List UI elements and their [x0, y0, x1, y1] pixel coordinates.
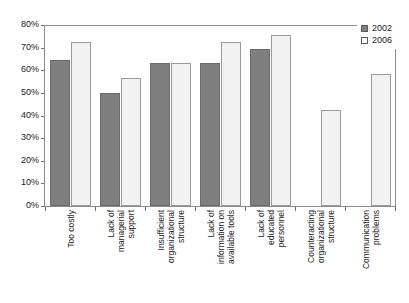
bar-2006[interactable] [71, 42, 91, 206]
x-axis-label-line: support [126, 210, 136, 303]
x-axis-label-line: Lack of [206, 210, 216, 303]
bar-group [345, 25, 395, 206]
bar-2006[interactable] [321, 110, 341, 206]
x-axis-label-line: problems [371, 210, 381, 303]
legend-item-2002[interactable]: 2002 [361, 23, 392, 34]
bar-group [145, 25, 195, 206]
bar-group [45, 25, 95, 206]
y-axis-tick-label: 10% [21, 178, 39, 187]
x-axis-category-label: Lack ofeducatedpersonnel [245, 210, 295, 303]
x-axis-label-line: structure [176, 210, 186, 303]
x-axis-label-line: Too costly [66, 210, 76, 303]
y-axis-tick-label: 30% [21, 133, 39, 142]
y-axis: 80%70%60%50%40%30%20%10%0% [0, 0, 44, 303]
bar-group [245, 25, 295, 206]
bar-2006[interactable] [121, 78, 141, 206]
bar-group [195, 25, 245, 206]
x-axis-category-label: Lack ofinformation onavailable tools [195, 210, 245, 303]
x-axis-category-label: Communicationproblems [345, 210, 395, 303]
x-axis-category-label: Lack ofmanagerialsupport [95, 210, 145, 303]
bar-group [295, 25, 345, 206]
x-axis-label-line: available tools [226, 210, 236, 303]
x-axis-label-line: personnel [276, 210, 286, 303]
x-axis-label-line: managerial [116, 210, 126, 303]
legend-item-2006[interactable]: 2006 [361, 35, 392, 46]
x-axis-label-line: educated [266, 210, 276, 303]
x-axis-category-label: Insufficientorganizationalstructure [145, 210, 195, 303]
x-axis-label-line: Lack of [256, 210, 266, 303]
bar-2002[interactable] [150, 63, 170, 206]
x-axis-label-line: Communication [361, 210, 371, 303]
y-axis-tick-label: 20% [21, 156, 39, 165]
bar-2002[interactable] [50, 60, 70, 206]
bar-2006[interactable] [171, 63, 191, 206]
y-axis-tick-label: 0% [26, 201, 39, 210]
legend: 2002 2006 [357, 21, 396, 49]
x-axis-label-line: organizational [166, 210, 176, 303]
x-axis-label-line: Counteracting [306, 210, 316, 303]
bar-chart: 80%70%60%50%40%30%20%10%0% Too costlyLac… [0, 0, 409, 303]
x-axis-category-label: Counteractingorganizationalstructure [295, 210, 345, 303]
x-axis-labels: Too costlyLack ofmanagerialsupportInsuff… [45, 210, 397, 303]
x-axis-label-line: information on [216, 210, 226, 303]
x-axis-label-line: organizational [316, 210, 326, 303]
bar-2006[interactable] [221, 42, 241, 206]
bar-2002[interactable] [200, 63, 220, 206]
y-axis-tick-label: 40% [21, 111, 39, 120]
legend-swatch-icon-2002 [361, 25, 368, 32]
legend-label-2002: 2002 [372, 24, 392, 33]
x-axis-label-line: Lack of [106, 210, 116, 303]
bar-2002[interactable] [100, 93, 120, 206]
bar-2006[interactable] [271, 35, 291, 206]
x-axis-category-label: Too costly [45, 210, 95, 303]
legend-label-2006: 2006 [372, 36, 392, 45]
plot-area [45, 25, 395, 206]
y-axis-tick-label: 50% [21, 88, 39, 97]
y-axis-tick-label: 70% [21, 43, 39, 52]
x-axis-label-line: structure [326, 210, 336, 303]
legend-swatch-icon-2006 [361, 37, 368, 44]
x-axis-label-line: Insufficient [156, 210, 166, 303]
y-axis-tick-label: 80% [21, 20, 39, 29]
bar-group [95, 25, 145, 206]
bar-2006[interactable] [371, 74, 391, 206]
bar-2002[interactable] [250, 49, 270, 206]
y-axis-tick-label: 60% [21, 65, 39, 74]
